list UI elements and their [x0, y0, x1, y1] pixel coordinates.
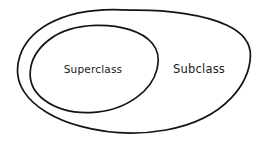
label-subclass: Subclass — [173, 62, 225, 76]
label-superclass: Superclass — [64, 63, 123, 75]
diagram-canvas: Superclass Subclass — [0, 0, 268, 144]
euler-diagram-sketch — [0, 0, 268, 144]
